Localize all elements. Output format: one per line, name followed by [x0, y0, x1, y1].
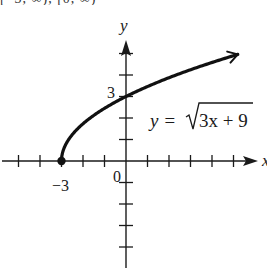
svg-text:3x + 9: 3x + 9 — [199, 110, 248, 131]
y-tick-label-3: 3 — [107, 84, 115, 101]
svg-text:y =: y = — [148, 110, 176, 131]
equation-lhs: y = — [148, 110, 176, 131]
origin-label: 0 — [113, 168, 121, 185]
function-curve — [62, 54, 238, 161]
x-tick-label-minus3: −3 — [52, 177, 69, 194]
x-axis-label: x — [261, 151, 267, 170]
start-point-dot — [57, 157, 65, 165]
function-graph: y x 0 −3 3 y = 3x + 9 — [0, 0, 267, 268]
y-axis-label: y — [118, 16, 128, 35]
equation-radicand: 3x + 9 — [199, 110, 248, 131]
equation-label: y = 3x + 9 — [148, 103, 253, 131]
